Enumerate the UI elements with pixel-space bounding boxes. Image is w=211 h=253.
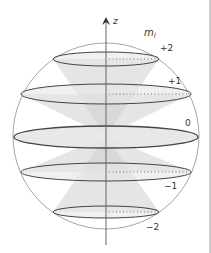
level-label-m0: 0 [185, 118, 191, 128]
ml-label: ml [144, 27, 156, 40]
angular-momentum-diagram: z ml +2+10−1−2 [0, 0, 211, 253]
level-label-m2: +2 [160, 43, 173, 53]
level-label-m-1: −1 [164, 181, 177, 191]
level-label-m1: +1 [168, 76, 181, 86]
z-axis-label: z [112, 16, 118, 26]
level-label-m-2: −2 [146, 222, 159, 232]
